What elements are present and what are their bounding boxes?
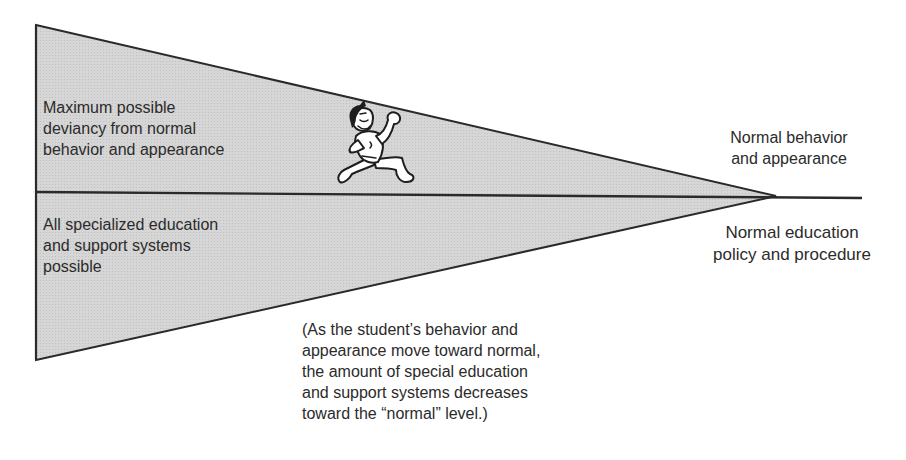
explanatory-note: (As the student’s behavior and appearanc… <box>302 319 540 424</box>
normal-behavior-label: Normal behavior and appearance <box>709 127 869 169</box>
specialized-education-label: All specialized education and support sy… <box>43 214 218 277</box>
max-deviancy-label: Maximum possible deviancy from normal be… <box>43 97 224 160</box>
normal-education-label: Normal education policy and procedure <box>686 222 898 266</box>
running-student-cartoon-icon <box>330 100 420 190</box>
